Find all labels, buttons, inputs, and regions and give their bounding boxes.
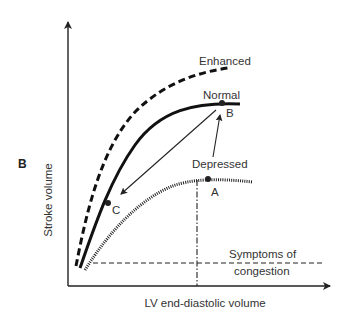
frank-starling-diagram: Enhanced Normal Depressed B A C Symptoms… <box>0 0 347 323</box>
depressed-label: Depressed <box>192 158 248 170</box>
congestion-label-line1: Symptoms of <box>229 248 297 260</box>
x-axis-title: LV end-diastolic volume <box>144 297 265 309</box>
panel-label: B <box>18 157 27 171</box>
normal-label: Normal <box>203 89 240 101</box>
point-c-marker <box>105 200 111 206</box>
arrow-depressed-to-b <box>213 115 220 157</box>
arrow-b-to-c <box>121 110 216 194</box>
point-b-label: B <box>226 107 234 119</box>
enhanced-label: Enhanced <box>199 55 251 67</box>
point-c-label: C <box>112 204 120 216</box>
depressed-curve <box>85 180 253 270</box>
point-a-label: A <box>211 186 219 198</box>
y-axis-title: Stroke volume <box>42 163 54 237</box>
point-a-marker <box>205 176 211 182</box>
congestion-label-line2: congestion <box>234 265 290 277</box>
